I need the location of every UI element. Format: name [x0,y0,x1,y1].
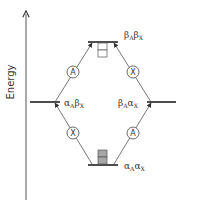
svg-text:A: A [70,68,76,77]
svg-text:X: X [70,129,76,138]
svg-text:X: X [130,68,136,77]
transition-label-bottom-to-right: A [127,127,139,139]
transition-label-left-to-top: A [67,66,79,78]
level-label-bottom: αAαX [124,161,146,172]
axis-label: Energy [5,64,16,99]
level-label-top: βAβX [124,30,144,41]
population-top [98,43,107,57]
level-label-left: αAβX [64,98,85,109]
population-bottom [98,150,107,164]
energy-level-diagram: Energy βAβX αAβX βAαX αAαX A X X A [0,0,199,212]
level-label-right: βAαX [118,98,139,109]
svg-text:A: A [130,129,136,138]
transition-label-bottom-to-left: X [67,127,79,139]
transition-label-right-to-top: X [127,66,139,78]
